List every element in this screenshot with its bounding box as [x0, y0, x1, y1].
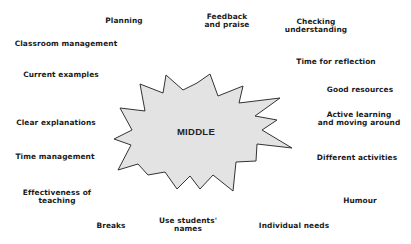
topic-label: Time for reflection: [296, 58, 375, 66]
topic-label: Time management: [15, 153, 94, 161]
topic-label: Individual needs: [259, 222, 329, 230]
topic-label: Current examples: [23, 71, 99, 79]
mind-map-diagram: MIDDLE PlanningFeedback and praiseChecki…: [0, 0, 411, 244]
topic-label: Active learning and moving around: [318, 111, 401, 128]
topic-label: Use students' names: [159, 217, 217, 234]
topic-label: Clear explanations: [16, 119, 96, 127]
center-label: MIDDLE: [177, 126, 215, 137]
topic-label: Good resources: [327, 86, 393, 94]
topic-label: Effectiveness of teaching: [23, 189, 91, 206]
topic-label: Planning: [105, 17, 142, 25]
topic-label: Feedback and praise: [205, 13, 250, 30]
topic-label: Checking understanding: [285, 18, 347, 35]
topic-label: Humour: [343, 197, 377, 205]
topic-label: Breaks: [96, 222, 125, 230]
topic-label: Classroom management: [15, 40, 118, 48]
topic-label: Different activities: [317, 154, 397, 162]
